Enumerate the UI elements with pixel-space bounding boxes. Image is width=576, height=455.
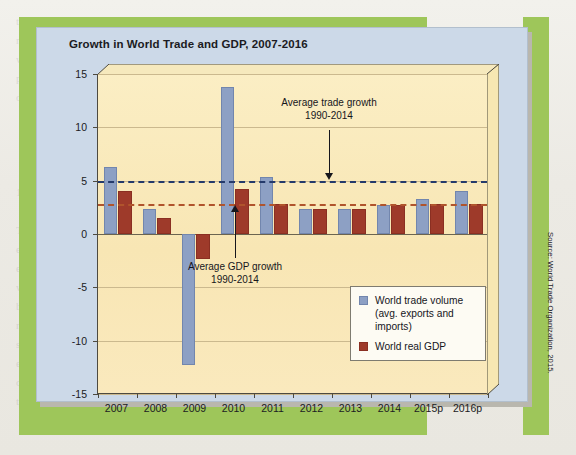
annotation-trade-arrow-line: [329, 130, 330, 174]
x-tick-mark-2015p: [410, 393, 411, 398]
y-axis-label--10: -10: [61, 335, 87, 347]
y-axis-label-15: 15: [61, 68, 87, 80]
x-tick-mark-2013: [332, 393, 333, 398]
chart-panel: Growth in World Trade and GDP, 2007-2016…: [36, 27, 528, 402]
annotation-trade-arrow-head-icon: [325, 173, 333, 180]
source-note: Source: World Trade Organization, 2015.: [546, 232, 555, 374]
bar-2007-trade: [104, 167, 118, 234]
legend-item-world-real-gdp: World real GDP: [359, 340, 476, 353]
gridline-0: [98, 234, 487, 235]
y-tick-mark--5: [93, 287, 98, 288]
bar-2015p-gdp: [430, 204, 444, 234]
bar-2013-trade: [338, 209, 352, 234]
y-tick-mark-0: [93, 234, 98, 235]
x-axis-label-2015p: 2015p: [414, 402, 443, 414]
reference-line-average-trade-growth: [98, 181, 487, 183]
x-tick-mark-2009: [176, 393, 177, 398]
bar-2008-trade: [143, 209, 157, 234]
y-tick-mark-15: [93, 74, 98, 75]
y-axis-label-10: 10: [61, 121, 87, 133]
annotation-gdp-arrow-head-icon: [231, 205, 239, 212]
x-tick-mark-2014: [371, 393, 372, 398]
bar-2009-gdp: [196, 234, 210, 259]
gridline-10: [98, 127, 487, 128]
chart-legend: World trade volume (avg. exports and imp…: [350, 286, 486, 361]
bar-2013-gdp: [352, 209, 366, 234]
y-axis-label-0: 0: [61, 228, 87, 240]
legend-swatch-icon-trade: [359, 296, 368, 305]
x-axis-label-2007: 2007: [105, 402, 128, 414]
x-axis-label-2014: 2014: [378, 402, 401, 414]
plot-right-face-3d: [487, 64, 499, 395]
y-axis-label--15: -15: [61, 388, 87, 400]
bar-2012-trade: [299, 209, 313, 234]
x-tick-mark-2007: [98, 393, 99, 398]
x-tick-mark-2012: [293, 393, 294, 398]
x-axis-label-2013: 2013: [339, 402, 362, 414]
annotation-trade-line1: Average trade growth: [281, 97, 376, 108]
annotation-gdp-line2: 1990-2014: [211, 274, 259, 285]
bar-2016p-gdp: [469, 204, 483, 234]
annotation-trade-line2: 1990-2014: [305, 110, 353, 121]
bar-2014-gdp: [391, 205, 405, 234]
x-axis-label-2011: 2011: [261, 402, 284, 414]
legend-swatch-icon-gdp: [359, 342, 368, 351]
bar-2012-gdp: [313, 209, 327, 234]
x-axis-label-2008: 2008: [144, 402, 167, 414]
gridline-15: [98, 74, 487, 75]
x-axis-label-2016p: 2016p: [453, 402, 482, 414]
x-axis-label-2010: 2010: [222, 402, 245, 414]
x-tick-mark-2011: [254, 393, 255, 398]
bar-2011-gdp: [274, 204, 288, 234]
bar-2014-trade: [377, 205, 391, 234]
y-axis-label--5: -5: [61, 281, 87, 293]
bar-2007-gdp: [118, 191, 132, 234]
bar-2008-gdp: [157, 218, 171, 234]
bar-2016p-trade: [455, 191, 469, 234]
x-tick-mark-2008: [137, 393, 138, 398]
bar-2009-trade: [182, 234, 196, 365]
annotation-gdp-line1: Average GDP growth: [188, 261, 282, 272]
reference-line-average-gdp-growth: [98, 204, 487, 206]
x-axis-label-2009: 2009: [183, 402, 206, 414]
x-tick-mark-2010: [215, 393, 216, 398]
annotation-gdp-arrow-line: [235, 208, 236, 258]
legend-label-trade: World trade volume (avg. exports and imp…: [375, 294, 476, 333]
legend-item-world-trade-volume: World trade volume (avg. exports and imp…: [359, 294, 476, 333]
annotation-average-gdp-growth: Average GDP growth1990-2014: [188, 260, 282, 286]
y-axis-label-5: 5: [61, 175, 87, 187]
y-tick-mark--10: [93, 341, 98, 342]
annotation-average-trade-growth: Average trade growth1990-2014: [281, 96, 376, 122]
x-tick-mark-end: [488, 393, 489, 398]
legend-label-gdp: World real GDP: [375, 340, 446, 353]
x-axis-label-2012: 2012: [300, 402, 323, 414]
x-tick-mark-2016p: [449, 393, 450, 398]
y-tick-mark-10: [93, 127, 98, 128]
